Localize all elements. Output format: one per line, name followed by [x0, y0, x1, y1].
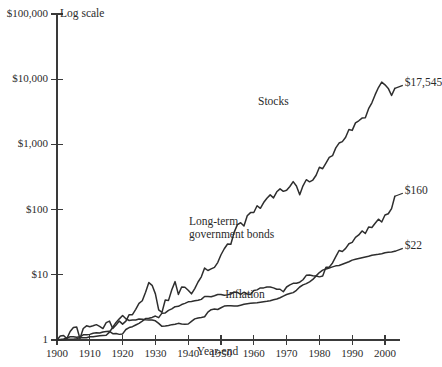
endpoint-leader	[395, 85, 403, 88]
endpoint-label-stocks: $17,545	[405, 76, 442, 89]
series-label-stocks: Stocks	[258, 95, 289, 108]
y-tick-label: 1	[0, 333, 48, 346]
y-tick-label: $10	[0, 268, 48, 281]
x-tick-label: 2000	[365, 347, 405, 360]
y-tick-label: $1,000	[0, 137, 48, 150]
series-line-stocks	[57, 82, 395, 340]
series-label-long-term-government-bonds: Long-termgovernment bonds	[189, 215, 274, 241]
endpoint-leader	[395, 248, 403, 251]
y-tick-label: $100,000	[0, 7, 48, 20]
y-tick-label: $100	[0, 203, 48, 216]
series-label-inflation: Inflation	[225, 288, 265, 301]
y-tick-label: $10,000	[0, 72, 48, 85]
log-scale-note: Log scale	[60, 7, 104, 20]
endpoint-leader	[395, 193, 403, 196]
chart-series-lines	[57, 82, 395, 340]
endpoint-label-long-term-government-bonds: $160	[405, 184, 428, 197]
series-label-line2: government bonds	[189, 228, 274, 241]
series-label-line1: Long-term	[189, 215, 274, 228]
endpoint-label-inflation: $22	[405, 239, 422, 252]
endpoint-leader-lines	[395, 85, 403, 251]
